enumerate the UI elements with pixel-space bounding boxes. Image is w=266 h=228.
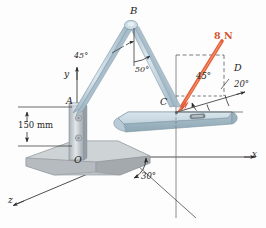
mechanics-figure: B 45° 50° y A 150 mm O z 30° x C 8 N 45°… (0, 0, 266, 228)
plate-slab (114, 112, 238, 132)
force-magnitude-label: 8 N (214, 31, 233, 41)
y-axis-label: y (64, 70, 69, 79)
plate-fitting (190, 114, 205, 119)
point-d-label: D (234, 63, 242, 73)
angle-arc-20-D (207, 79, 229, 111)
angle-45-force-label: 45° (196, 72, 211, 81)
boom-member-AB (73, 24, 134, 115)
origin-o-label: O (74, 155, 82, 165)
point-b-label: B (130, 6, 137, 16)
point-marker-C (175, 111, 178, 114)
joint-B (125, 20, 138, 29)
angle-30-label: 30° (141, 172, 156, 181)
z-axis-label: z (8, 196, 13, 205)
point-c-label: C (160, 97, 167, 107)
angle-45-boom-label: 45° (74, 52, 88, 60)
angle-50-boom-label: 50° (135, 66, 149, 74)
dimension-150mm-label: 150 mm (18, 121, 53, 130)
angle-20-label: 20° (234, 80, 249, 89)
point-a-label: A (66, 96, 73, 106)
x-axis-label: x (252, 150, 257, 159)
